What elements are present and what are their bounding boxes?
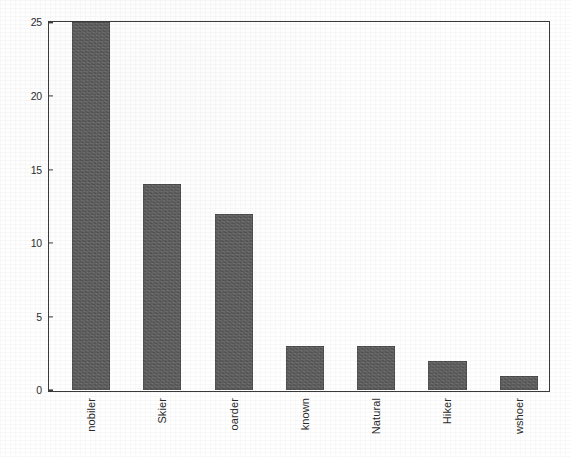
bar: [500, 376, 538, 391]
x-axis-tick: nobiler: [55, 392, 126, 457]
plot-area: [49, 22, 548, 390]
x-axis-tick-label: Hiker: [441, 398, 453, 424]
bar: [428, 361, 466, 390]
x-axis-tick: wshoer: [483, 392, 554, 457]
x-axis-tick: Natural: [341, 392, 412, 457]
bar: [143, 184, 181, 390]
x-axis-labels: nobilerSkieroarderknownNaturalHikerwshoe…: [49, 392, 548, 457]
x-axis-tick: Skier: [127, 392, 198, 457]
x-axis-tick-label: known: [299, 398, 311, 430]
x-axis-tick: known: [269, 392, 340, 457]
bar: [72, 22, 110, 390]
x-axis-tick-label: Natural: [370, 398, 382, 434]
x-axis-tick-label: oarder: [228, 398, 240, 430]
x-axis-tick-label: wshoer: [513, 398, 525, 434]
bar: [357, 346, 395, 390]
bar: [215, 214, 253, 391]
x-axis-tick-label: nobiler: [85, 398, 97, 432]
bar-chart: 2520151050 nobilerSkieroarderknownNatura…: [0, 0, 570, 457]
x-axis-tick: oarder: [198, 392, 269, 457]
x-axis-tick: Hiker: [412, 392, 483, 457]
x-axis-tick-label: Skier: [156, 398, 168, 424]
bar: [286, 346, 324, 390]
